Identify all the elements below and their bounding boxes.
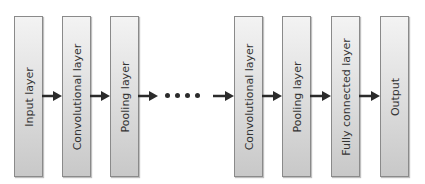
arrow-icon [42,91,62,101]
arrow-icon [262,91,282,101]
arrow-icon [359,91,380,101]
pooling-layer-label-1: Pooling layer [118,61,131,132]
convolutional-layer-box-2: Convolutional layer [234,16,263,177]
arrow-icon [90,91,110,101]
fully-connected-layer-label: Fully connected layer [339,38,352,156]
pooling-layer-box-1: Pooling layer [110,16,139,177]
pooling-layer-label-2: Pooling layer [290,61,303,132]
arrow-icon [138,91,158,101]
arrow-icon [310,91,331,101]
output-label: Output [388,77,401,115]
input-layer-label: Input layer [22,67,35,127]
arrow-icon [213,91,234,101]
convolutional-layer-label-2: Convolutional layer [242,43,255,150]
pooling-layer-box-2: Pooling layer [282,16,311,177]
convolutional-layer-box-1: Convolutional layer [62,16,91,177]
convolutional-layer-label-1: Convolutional layer [70,43,83,150]
output-box: Output [380,16,409,177]
input-layer-box: Input layer [14,16,43,177]
fully-connected-layer-box: Fully connected layer [331,16,360,177]
